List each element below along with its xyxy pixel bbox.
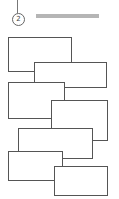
- diagram-box-7: [54, 166, 108, 196]
- step-number-badge: 2: [12, 13, 25, 26]
- title-placeholder-bar: [36, 14, 99, 18]
- connector-line: [17, 0, 18, 13]
